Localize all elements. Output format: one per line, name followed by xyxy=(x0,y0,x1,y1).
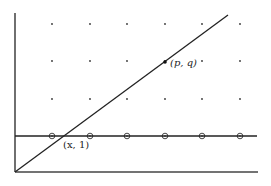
lattice-point xyxy=(51,60,53,62)
label-x-1: (x, 1) xyxy=(63,139,89,150)
lattice-point xyxy=(201,60,203,62)
lattice-point xyxy=(126,60,128,62)
diagonal-line-through-origin xyxy=(15,15,228,172)
lattice-point xyxy=(201,23,203,25)
lattice-point xyxy=(239,98,241,100)
lattice-point xyxy=(89,23,91,25)
lattice-point xyxy=(51,98,53,100)
lattice-point xyxy=(239,23,241,25)
lattice-point xyxy=(164,23,166,25)
lattice-point xyxy=(239,60,241,62)
lattice-point xyxy=(201,98,203,100)
point-p-q-marker xyxy=(163,60,167,64)
lattice-point xyxy=(126,98,128,100)
lattice-point xyxy=(51,23,53,25)
lattice-point xyxy=(89,98,91,100)
lattice-point xyxy=(164,98,166,100)
lattice-points xyxy=(51,23,241,100)
lattice-point xyxy=(126,23,128,25)
label-p-q: (p, q) xyxy=(170,57,197,68)
lattice-diagram: (p, q) (x, 1) xyxy=(0,0,271,186)
lattice-point xyxy=(89,60,91,62)
